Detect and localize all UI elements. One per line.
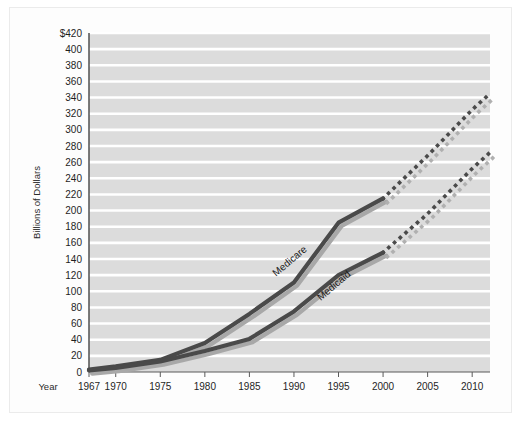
y-tick-label: 120 [65,270,82,281]
plot-wrapper: $420400380360340320300280260240220200180… [0,0,522,422]
y-tick-label: 380 [65,60,82,71]
y-tick-label: $420 [60,28,83,39]
x-tick-label: 2000 [372,381,395,392]
y-tick-label: 280 [65,141,82,152]
y-tick-label: 400 [65,44,82,55]
x-tick-label: 1995 [327,381,350,392]
y-tick-label: 360 [65,76,82,87]
y-tick-label: 40 [71,334,83,345]
x-tick-label: 1970 [105,381,128,392]
x-tick-label: 1967 [78,381,101,392]
y-tick-label: 300 [65,124,82,135]
line-chart: $420400380360340320300280260240220200180… [0,0,522,422]
y-axis-ticks: $420400380360340320300280260240220200180… [60,28,83,378]
y-tick-label: 100 [65,286,82,297]
y-tick-label: 320 [65,108,82,119]
x-tick-label: 1985 [238,381,261,392]
y-tick-label: 160 [65,237,82,248]
y-tick-label: 80 [71,302,83,313]
y-tick-label: 340 [65,92,82,103]
x-tick-label: 2005 [416,381,439,392]
x-tick-label: 1990 [283,381,306,392]
axis-titles: Billions of DollarsYear [31,166,58,392]
y-tick-label: 260 [65,157,82,168]
y-tick-label: 220 [65,189,82,200]
y-tick-label: 180 [65,221,82,232]
y-tick-label: 20 [71,350,83,361]
x-axis-ticks: 1967197019751980198519901995200020052010 [78,372,484,392]
chart-figure: $420400380360340320300280260240220200180… [0,0,522,422]
projection-dot-shadow [490,156,495,161]
x-tick-label: 1980 [194,381,217,392]
y-tick-label: 200 [65,205,82,216]
y-tick-label: 60 [71,318,83,329]
y-tick-label: 0 [76,367,82,378]
y-tick-label: 240 [65,173,82,184]
y-axis-title: Billions of Dollars [31,166,42,239]
x-axis-title: Year [38,381,57,392]
x-tick-label: 1975 [149,381,172,392]
y-tick-label: 140 [65,254,82,265]
x-tick-label: 2010 [461,381,484,392]
